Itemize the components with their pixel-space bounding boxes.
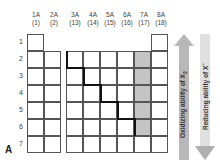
period-label-1: 1 (17, 38, 25, 45)
cell-6A-period-5 (117, 102, 134, 119)
cell-8A-period-4 (151, 85, 168, 102)
cell-3A-period-3 (66, 68, 83, 85)
cell-5A-period-2 (100, 51, 117, 68)
period-label-6: 6 (17, 123, 25, 130)
cell-2A-period-3 (44, 68, 61, 85)
column-header-6A: 6A(16) (118, 11, 136, 27)
column-header-1A: 1A(1) (27, 11, 45, 27)
oxidizing-ability-label: Oxidizing ability of X2 (179, 71, 188, 138)
cell-7A-period-7 (134, 136, 151, 153)
cell-4A-period-5 (83, 102, 100, 119)
cell-1A-period-1 (27, 34, 44, 51)
cell-5A-period-6 (100, 119, 117, 136)
cell-4A-period-3 (83, 68, 100, 85)
cell-6A-period-2 (117, 51, 134, 68)
cell-3A-period-4 (66, 85, 83, 102)
cell-1A-period-6 (27, 119, 44, 136)
cell-7A-period-6 (134, 119, 151, 136)
cell-7A-period-3 (134, 68, 151, 85)
cell-2A-period-7 (44, 136, 61, 153)
cell-8A-period-3 (151, 68, 168, 85)
cell-5A-period-3 (100, 68, 117, 85)
column-header-7A: 7A(17) (135, 11, 153, 27)
cell-5A-period-5 (100, 102, 117, 119)
cell-2A-period-6 (44, 119, 61, 136)
cell-2A-period-2 (44, 51, 61, 68)
period-label-5: 5 (17, 106, 25, 113)
cell-6A-period-7 (117, 136, 134, 153)
cell-1A-period-7 (27, 136, 44, 153)
cell-5A-period-7 (100, 136, 117, 153)
cell-2A-period-4 (44, 85, 61, 102)
cell-1A-period-2 (27, 51, 44, 68)
cell-4A-period-4 (83, 85, 100, 102)
reducing-ability-label: Reducing ability of X− (200, 63, 209, 130)
cell-3A-period-7 (66, 136, 83, 153)
cell-8A-period-5 (151, 102, 168, 119)
cell-7A-period-4 (134, 85, 151, 102)
cell-6A-period-3 (117, 68, 134, 85)
cell-5A-period-4 (100, 85, 117, 102)
period-label-7: 7 (17, 140, 25, 147)
period-label-2: 2 (17, 55, 25, 62)
cell-2A-period-5 (44, 102, 61, 119)
cell-8A-period-7 (151, 136, 168, 153)
cell-4A-period-6 (83, 119, 100, 136)
cell-8A-period-6 (151, 119, 168, 136)
cell-3A-period-6 (66, 119, 83, 136)
cell-4A-period-7 (83, 136, 100, 153)
column-header-8A: 8A(18) (152, 11, 170, 27)
cell-7A-period-2 (134, 51, 151, 68)
cell-6A-period-6 (117, 119, 134, 136)
panel-label: A (5, 144, 12, 155)
cell-1A-period-5 (27, 102, 44, 119)
column-header-5A: 5A(15) (101, 11, 119, 27)
column-header-2A: 2A(2) (45, 11, 63, 27)
cell-1A-period-3 (27, 68, 44, 85)
cell-6A-period-4 (117, 85, 134, 102)
period-label-3: 3 (17, 72, 25, 79)
cell-3A-period-2 (66, 51, 83, 68)
cell-8A-period-1 (151, 34, 168, 51)
cell-7A-period-5 (134, 102, 151, 119)
column-header-3A: 3A(13) (66, 11, 84, 27)
period-label-4: 4 (17, 89, 25, 96)
cell-1A-period-4 (27, 85, 44, 102)
cell-8A-period-2 (151, 51, 168, 68)
column-header-4A: 4A(14) (84, 11, 102, 27)
cell-4A-period-2 (83, 51, 100, 68)
cell-3A-period-5 (66, 102, 83, 119)
